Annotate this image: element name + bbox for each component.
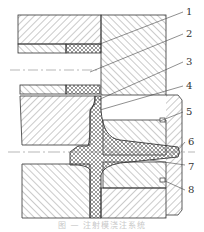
mold-cross-section-diagram: 1 2 3 4 5 6 7 8 [0,0,204,232]
callout-8: 8 [188,184,194,195]
callout-2: 2 [186,28,192,39]
left-upper-plate [18,15,101,53]
callout-4: 4 [186,80,192,91]
callout-1: 1 [186,6,192,17]
callout-6: 6 [188,136,194,147]
right-mold-block [101,15,182,218]
callout-7: 7 [188,161,194,172]
callout-5: 5 [186,106,192,117]
figure-caption: 图 — 注射模浇注系统 [0,219,204,230]
left-lower-plate [22,164,90,218]
callout-numbers: 1 2 3 4 5 6 7 8 [186,6,194,195]
left-middle-plate [20,85,100,145]
callout-3: 3 [186,56,192,67]
